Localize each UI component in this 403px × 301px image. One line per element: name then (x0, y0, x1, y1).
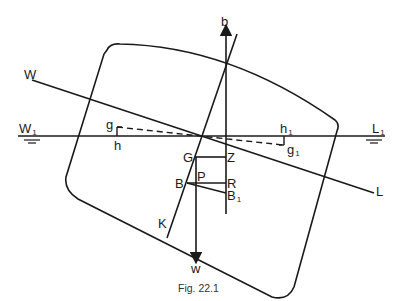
figure-caption: Fig. 22.1 (178, 282, 219, 294)
label-L: L (376, 185, 383, 198)
ship-stability-diagram: b w W L W1 L1 g h h1 g1 G Z B P R B1 K F… (0, 0, 403, 301)
label-g: g (106, 118, 113, 131)
label-Z: Z (227, 151, 235, 164)
b-b1-line (187, 183, 226, 193)
diagram-lines (0, 0, 403, 301)
label-G: G (183, 151, 193, 164)
label-h1: h1 (280, 122, 293, 137)
label-h: h (114, 139, 121, 152)
label-w-weight: w (191, 262, 200, 275)
label-g1: g1 (287, 143, 300, 158)
label-L1: L1 (372, 122, 385, 137)
label-W1: W1 (19, 122, 37, 137)
label-K: K (158, 217, 167, 230)
label-B: B (175, 177, 184, 190)
label-b: b (221, 15, 228, 28)
label-B1: B1 (227, 189, 241, 204)
label-P: P (197, 170, 206, 183)
label-W: W (24, 68, 36, 81)
